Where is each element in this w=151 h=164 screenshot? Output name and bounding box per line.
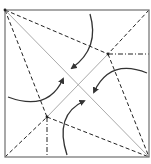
top-fold-arrow-icon xyxy=(72,14,93,68)
left-fold-arrow-icon xyxy=(8,79,63,102)
bl-to-lower-node-crease xyxy=(5,117,47,157)
lower-node-dot xyxy=(46,116,49,119)
tr-to-upper-node-crease xyxy=(108,10,149,54)
upper-node-dot xyxy=(107,53,110,56)
main-diagonal-crease xyxy=(5,10,149,157)
right-fold-arrow-icon xyxy=(94,68,147,92)
upper-node-to-br-crease xyxy=(108,54,149,157)
lower-node-to-br-crease xyxy=(47,117,149,157)
crease-lines xyxy=(5,10,149,157)
bottom-fold-arrow-icon xyxy=(63,101,84,155)
fold-diagram xyxy=(0,0,151,164)
top-left-dot xyxy=(4,9,7,12)
